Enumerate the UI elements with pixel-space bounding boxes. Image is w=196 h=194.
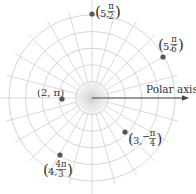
radial-grid-line: [92, 98, 115, 184]
point-marker: [57, 152, 62, 157]
point-5-pi-over-6: ( 5, π 6 ): [158, 34, 184, 60]
point-theta-den: 4: [150, 138, 155, 148]
point-marker: [89, 11, 94, 16]
polar-axis-label: Polar axis: [146, 83, 196, 95]
point-theta-num: 4π: [56, 159, 67, 169]
point-3-neg-pi-over-4: ( 3, − π 4 ): [122, 128, 162, 148]
paren-close: ): [67, 161, 73, 179]
point-5-pi-over-2: ( 5, π 2 ): [89, 1, 120, 21]
point-theta-num: π: [108, 1, 114, 11]
paren-close: ): [157, 130, 163, 148]
point-theta-den: 2: [108, 11, 113, 21]
point-theta-den: 3: [58, 169, 63, 179]
point-theta-den: 6: [171, 44, 176, 54]
polar-diagram: Polar axis ( 5, π 2 ) ( 5, π 6 ) (2, π): [0, 0, 196, 194]
point-2-pi: (2, π): [37, 87, 65, 102]
point-marker: [122, 129, 127, 134]
point-4-4pi-over-3: ( 4, 4π 3 ): [43, 152, 73, 179]
point-theta-num: π: [150, 128, 156, 138]
point-theta-num: π: [171, 34, 177, 44]
radial-grid-line: [92, 12, 115, 98]
arrow-head-icon: [182, 95, 189, 100]
radial-grid-line: [92, 21, 137, 98]
paren-close: ): [178, 36, 184, 54]
point-marker: [160, 54, 165, 59]
radial-grid-line: [69, 12, 92, 98]
radial-grid-line: [92, 98, 178, 121]
paren-close: ): [115, 3, 121, 21]
radial-grid-line: [6, 98, 92, 121]
radial-grid-line: [15, 98, 92, 143]
point-label: (2, π): [37, 87, 64, 98]
